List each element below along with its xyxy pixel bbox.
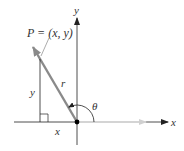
origin-dot	[75, 120, 80, 125]
right-angle-marker	[40, 114, 48, 122]
y-axis-label: y	[73, 4, 79, 16]
leg-y-label: y	[29, 86, 35, 98]
radius-label: r	[61, 77, 66, 89]
angle-label: θ	[92, 100, 98, 112]
leg-x-label: x	[54, 125, 60, 137]
polar-coordinates-diagram: P = (x, y) y x r θ y x	[0, 0, 184, 151]
point-label-leader	[41, 38, 49, 56]
point-label: P = (x, y)	[26, 26, 73, 40]
x-axis-label: x	[170, 116, 176, 128]
